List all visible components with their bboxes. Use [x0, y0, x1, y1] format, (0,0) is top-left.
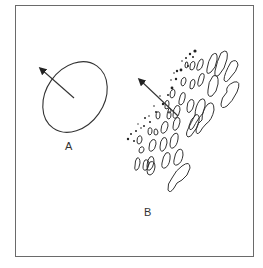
panel-a-diagram [29, 49, 120, 145]
panel-b-dots [127, 49, 197, 142]
panel-label-b: B [144, 206, 151, 218]
panel-label-a: A [65, 140, 72, 152]
diagram-canvas [0, 0, 263, 268]
ellipse-shape [29, 49, 120, 145]
